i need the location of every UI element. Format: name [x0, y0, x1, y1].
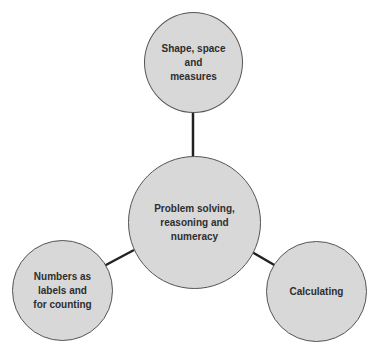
node-label: Shape, space and measures: [162, 42, 226, 84]
node-calculating: Calculating: [266, 241, 367, 342]
node-shape-space-measures: Shape, space and measures: [144, 12, 243, 113]
node-numbers-labels-counting: Numbers as labels and for counting: [12, 240, 113, 341]
node-label: Calculating: [290, 285, 344, 299]
node-label: Problem solving, reasoning and numeracy: [154, 202, 235, 244]
connector-center-bottom-left: [104, 250, 134, 266]
connector-center-bottom-right: [252, 252, 276, 266]
node-label: Numbers as labels and for counting: [33, 270, 91, 312]
node-center-problem-solving: Problem solving, reasoning and numeracy: [128, 156, 261, 289]
